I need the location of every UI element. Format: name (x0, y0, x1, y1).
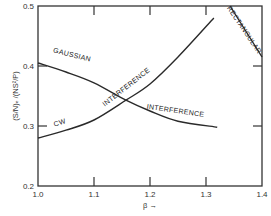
curve-label-interference: INTERFERENCE (101, 66, 151, 107)
curve-label-cw: CW (53, 117, 67, 127)
x-tick-label: 1.4 (256, 190, 268, 199)
y-axis-title: (S/N)ₑ /(NS²/P) (11, 71, 20, 121)
x-tick-label: 1.2 (144, 190, 156, 199)
tick-labels: 1.01.11.21.31.40.20.30.40.5 (23, 2, 268, 199)
x-axis-title: β → (143, 201, 157, 210)
annotations: GAUSSIANINTERFERENCECWINTERFERENCERECTAN… (53, 5, 263, 128)
curve-label-rectangular: RECTANGULAR (226, 5, 263, 55)
x-tick-label: 1.0 (32, 190, 44, 199)
curve-label-interference: INTERFERENCE (146, 103, 204, 118)
y-tick-label: 0.5 (23, 2, 35, 11)
curve-gaussian-interference (38, 63, 217, 127)
y-tick-label: 0.2 (23, 182, 35, 191)
x-tick-label: 1.1 (88, 190, 100, 199)
x-tick-label: 1.3 (200, 190, 212, 199)
chart: 1.01.11.21.31.40.20.30.40.5 GAUSSIANINTE… (0, 0, 271, 216)
ticks (38, 6, 262, 186)
y-tick-label: 0.4 (23, 62, 35, 71)
plot-frame (38, 6, 262, 186)
y-tick-label: 0.3 (23, 122, 35, 131)
curve-label-gaussian: GAUSSIAN (53, 47, 92, 63)
